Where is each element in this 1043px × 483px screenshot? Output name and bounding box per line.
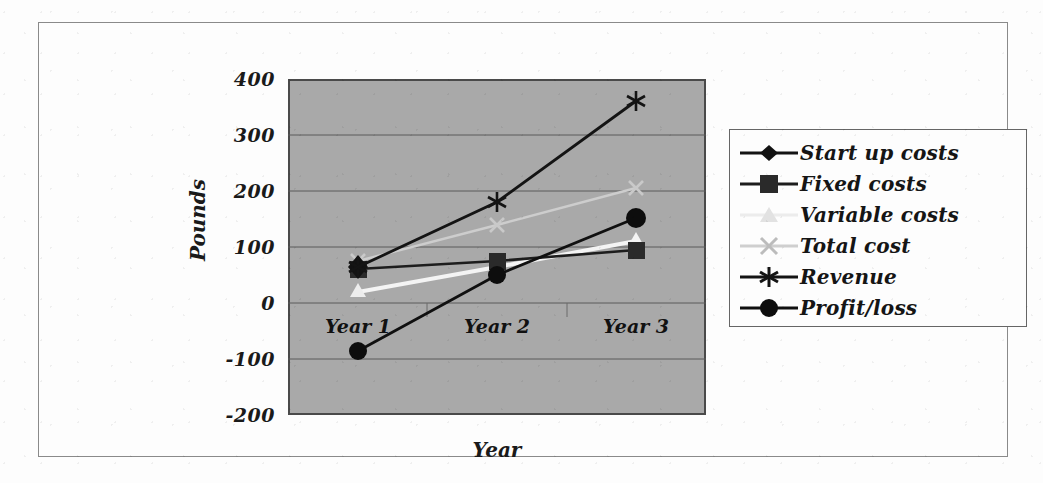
legend-item-revenue[interactable]: Revenue — [730, 261, 1026, 292]
chart-page: Pounds 400 300 200 100 0 -100 -200 — [0, 0, 1043, 483]
y-tick-0: 0 — [261, 292, 275, 314]
y-tick-100: 100 — [234, 236, 275, 258]
triangle-marker-icon — [738, 203, 800, 227]
x-category-year-1: Year 1 — [325, 315, 391, 337]
legend-item-total-cost[interactable]: Total cost — [730, 230, 1026, 261]
y-tick-neg200: -200 — [225, 404, 275, 426]
legend-label-profit-loss: Profit/loss — [800, 296, 917, 320]
legend-label-variable-costs: Variable costs — [800, 203, 959, 227]
x-axis-title: Year — [473, 438, 522, 462]
circle-marker-icon — [738, 296, 800, 320]
legend-item-profit-loss[interactable]: Profit/loss — [730, 292, 1026, 323]
x-category-year-3: Year 3 — [603, 315, 669, 337]
legend-label-fixed-costs: Fixed costs — [800, 172, 927, 196]
legend-label-total-cost: Total cost — [800, 234, 911, 258]
x-category-year-2: Year 2 — [464, 315, 530, 337]
y-tick-200: 200 — [234, 180, 275, 202]
chart-legend: Start up costs Fixed costs — [729, 129, 1027, 327]
legend-label-start-up-costs: Start up costs — [800, 141, 959, 165]
asterisk-marker-icon — [738, 265, 800, 289]
legend-label-revenue: Revenue — [800, 265, 897, 289]
legend-item-fixed-costs[interactable]: Fixed costs — [730, 168, 1026, 199]
figure-frame: Pounds 400 300 200 100 0 -100 -200 — [38, 22, 1008, 457]
y-tick-400: 400 — [234, 68, 275, 90]
chart-canvas — [288, 79, 706, 415]
legend-item-variable-costs[interactable]: Variable costs — [730, 199, 1026, 230]
y-tick-neg100: -100 — [225, 348, 275, 370]
legend-item-start-up-costs[interactable]: Start up costs — [730, 137, 1026, 168]
plot-area-wrapper: Year 1 Year 2 Year 3 — [288, 79, 706, 415]
y-tick-300: 300 — [234, 124, 275, 146]
x-marker-icon — [738, 234, 800, 258]
square-marker-icon — [738, 172, 800, 196]
diamond-marker-icon — [738, 141, 800, 165]
y-axis-tick-labels: 400 300 200 100 0 -100 -200 — [191, 79, 275, 415]
